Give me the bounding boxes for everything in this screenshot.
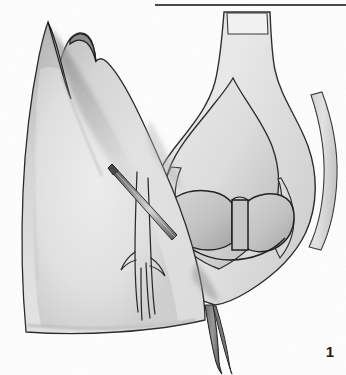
duct-neck-lumen — [227, 13, 268, 34]
anatomical-illustration — [0, 0, 346, 375]
top-horizontal-rule — [155, 4, 346, 6]
central-septum — [232, 200, 248, 250]
figure-number-label: 1 — [326, 344, 334, 359]
figure-page: 1 — [0, 0, 346, 375]
